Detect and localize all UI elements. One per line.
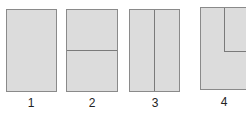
- panel-2-horizontal-divider: [67, 50, 117, 51]
- panel-1: [6, 9, 57, 92]
- panel-1-label: 1: [21, 97, 41, 109]
- panel-4-inset-horizontal-edge: [224, 51, 246, 52]
- panel-2-label: 2: [82, 97, 102, 109]
- panel-4: [200, 7, 246, 90]
- panel-4-inset-vertical-edge: [224, 8, 225, 51]
- panel-4-label: 4: [214, 96, 234, 108]
- panel-3-vertical-divider: [154, 10, 155, 91]
- panel-3-label: 3: [145, 97, 165, 109]
